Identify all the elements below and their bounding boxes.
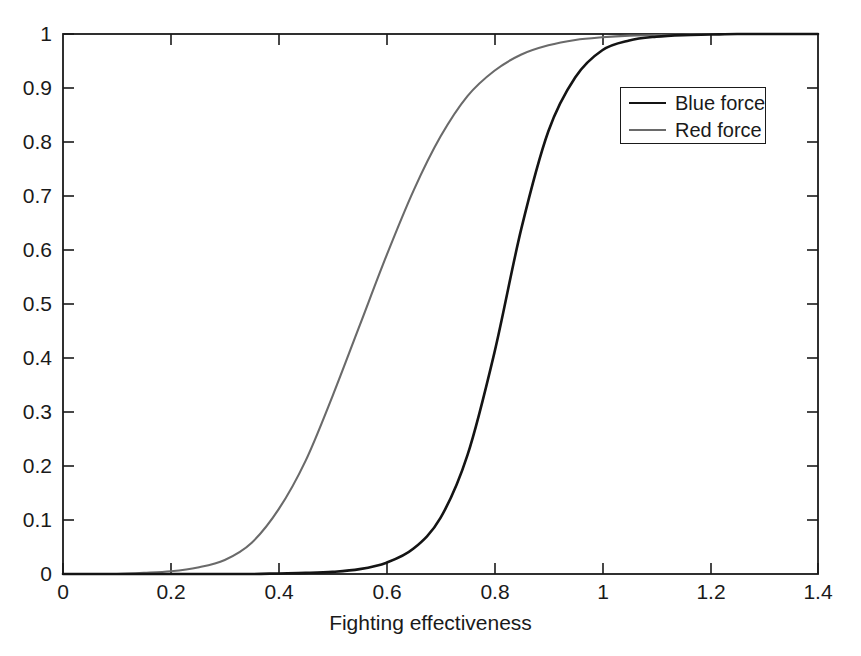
x-tick-label-0.8: 0.8 bbox=[465, 581, 525, 602]
y-tick-label-1: 1 bbox=[0, 23, 52, 44]
y-tick-label-0.6: 0.6 bbox=[0, 239, 52, 260]
y-tick-label-0.1: 0.1 bbox=[0, 509, 52, 530]
legend-label-red-force: Red force bbox=[675, 120, 762, 140]
chart-figure: 0 0.1 0.2 0.3 0.4 0.5 0.6 0.7 0.8 0.9 1 … bbox=[0, 0, 861, 656]
x-tick-label-0.6: 0.6 bbox=[357, 581, 417, 602]
legend-entry-blue-force: Blue force bbox=[621, 89, 767, 117]
x-tick-label-1.2: 1.2 bbox=[681, 581, 741, 602]
legend-entry-red-force: Red force bbox=[621, 116, 767, 144]
y-tick-label-0.3: 0.3 bbox=[0, 401, 52, 422]
x-tick-label-0.4: 0.4 bbox=[249, 581, 309, 602]
red-line-swatch-icon bbox=[629, 129, 666, 131]
x-axis-title: Fighting effectiveness bbox=[0, 611, 861, 635]
x-tick-label-0.2: 0.2 bbox=[141, 581, 201, 602]
legend-label-blue-force: Blue force bbox=[675, 93, 765, 113]
y-tick-label-0.4: 0.4 bbox=[0, 347, 52, 368]
x-tick-label-1.4: 1.4 bbox=[788, 581, 848, 602]
y-tick-label-0.9: 0.9 bbox=[0, 77, 52, 98]
y-tick-label-0.5: 0.5 bbox=[0, 293, 52, 314]
y-tick-label-0.7: 0.7 bbox=[0, 185, 52, 206]
y-tick-label-0.8: 0.8 bbox=[0, 131, 52, 152]
x-tick-label-1: 1 bbox=[573, 581, 633, 602]
chart-legend: Blue force Red force bbox=[620, 87, 766, 144]
y-tick-label-0.2: 0.2 bbox=[0, 455, 52, 476]
x-tick-label-0: 0 bbox=[33, 581, 93, 602]
blue-line-swatch-icon bbox=[629, 102, 666, 104]
